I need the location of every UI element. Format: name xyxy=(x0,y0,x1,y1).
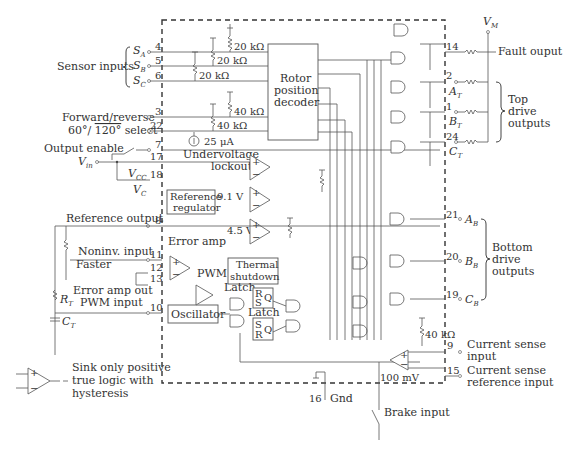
svg-text:PWM: PWM xyxy=(197,267,227,280)
svg-text:9: 9 xyxy=(447,340,453,351)
svg-text:SC: SC xyxy=(133,74,147,89)
svg-text:reference input: reference input xyxy=(467,376,554,389)
svg-text:+: + xyxy=(252,156,260,167)
svg-text:8: 8 xyxy=(155,215,161,226)
svg-text:25 μA: 25 μA xyxy=(204,136,234,147)
forward-reverse-group: Forward/reverse 60°/ 120° select 3 22 40… xyxy=(62,92,268,137)
svg-text:+: + xyxy=(172,256,180,267)
svg-text:Oscillator: Oscillator xyxy=(171,308,226,321)
top-output-transistors xyxy=(420,44,445,166)
svg-text:SB: SB xyxy=(133,59,146,74)
svg-text:CT: CT xyxy=(449,145,463,160)
svg-text:Reference: Reference xyxy=(170,191,222,202)
svg-text:Gnd: Gnd xyxy=(330,392,353,405)
current-source-25ua: 25 μA xyxy=(189,132,234,147)
svg-text:22: 22 xyxy=(150,120,163,131)
svg-text:4: 4 xyxy=(155,41,161,52)
svg-text:VM: VM xyxy=(483,15,499,30)
svg-text:+: + xyxy=(30,367,38,378)
svg-text:Brake input: Brake input xyxy=(384,406,450,419)
svg-text:hysteresis: hysteresis xyxy=(72,387,129,400)
svg-text:6: 6 xyxy=(155,70,161,81)
svg-text:PWM input: PWM input xyxy=(80,296,143,309)
svg-text:RT: RT xyxy=(59,293,74,308)
svg-text:20 kΩ: 20 kΩ xyxy=(199,70,229,81)
svg-text:Sink only positive: Sink only positive xyxy=(72,361,171,374)
svg-text:+: + xyxy=(252,187,260,198)
svg-text:−: − xyxy=(252,232,260,243)
svg-text:Output enable: Output enable xyxy=(44,142,124,155)
svg-text:−: − xyxy=(400,359,408,370)
bottom-drive-outputs: 21 20 19 AB BB CB Bottom drive outputs xyxy=(446,209,535,308)
svg-text:outputs: outputs xyxy=(492,265,535,278)
svg-text:3: 3 xyxy=(155,106,161,117)
svg-text:11: 11 xyxy=(150,249,163,260)
svg-text:Noninv. input: Noninv. input xyxy=(78,245,154,258)
svg-text:20 kΩ: 20 kΩ xyxy=(234,41,264,52)
svg-text:−: − xyxy=(172,269,180,280)
svg-text:regulator: regulator xyxy=(173,202,221,213)
svg-text:Error amp: Error amp xyxy=(168,235,226,248)
logic-gates-middle xyxy=(273,257,367,337)
sensor-inputs-label: Sensor inputs xyxy=(57,60,134,73)
undervoltage-lockout: Undervoltage lockout + − xyxy=(183,148,270,180)
svg-text:Latch: Latch xyxy=(224,281,256,294)
circuit-diagram: Sensor inputs SA SB SC 4 5 6 20 kΩ 20 kΩ… xyxy=(0,0,564,460)
svg-text:VCC: VCC xyxy=(128,167,147,182)
svg-text:Vin: Vin xyxy=(78,155,93,170)
svg-text:outputs: outputs xyxy=(508,117,551,130)
svg-text:−: − xyxy=(252,169,260,180)
svg-text:40 kΩ: 40 kΩ xyxy=(217,120,247,131)
svg-text:+: + xyxy=(252,219,260,230)
svg-text:Reference output: Reference output xyxy=(66,212,164,225)
svg-text:10: 10 xyxy=(150,302,163,313)
svg-text:lockout: lockout xyxy=(211,160,253,173)
rotor-position-decoder: Rotor position decoder xyxy=(268,44,320,140)
svg-text:7: 7 xyxy=(155,139,161,150)
svg-text:input: input xyxy=(467,350,497,363)
top-drive-outputs: 2 1 24 AT BT CT Top drive outputs xyxy=(446,70,551,160)
svg-text:R: R xyxy=(255,329,263,340)
svg-text:14: 14 xyxy=(446,41,459,52)
svg-text:16: 16 xyxy=(309,393,322,404)
svg-text:20: 20 xyxy=(446,251,459,262)
fault-output-group: 14 Fault ouput xyxy=(445,41,563,58)
svg-text:decoder: decoder xyxy=(274,96,320,109)
svg-text:21: 21 xyxy=(446,209,459,220)
svg-text:Q: Q xyxy=(264,292,272,303)
svg-text:Thermal: Thermal xyxy=(236,259,278,270)
svg-text:true logic with: true logic with xyxy=(72,374,154,387)
svg-text:BB: BB xyxy=(464,255,478,270)
svg-text:VC: VC xyxy=(133,183,147,198)
current-sense-comparator: + − 100 mV xyxy=(380,349,445,383)
svg-text:Forward/reverse: Forward/reverse xyxy=(62,111,155,124)
svg-text:AB: AB xyxy=(464,213,478,228)
svg-text:CT: CT xyxy=(62,315,76,330)
vm-supply: VM xyxy=(483,15,499,142)
svg-text:100 mV: 100 mV xyxy=(380,372,420,383)
svg-text:15: 15 xyxy=(447,365,460,376)
svg-text:18: 18 xyxy=(150,169,163,180)
top-logic-gates xyxy=(391,24,408,153)
legend-comparator-hysteresis: + − Sink only positive true logic with h… xyxy=(16,361,171,400)
svg-text:−: − xyxy=(252,200,260,211)
svg-text:Latch: Latch xyxy=(248,306,280,319)
pullup-resistors-20k: 20 kΩ 20 kΩ 20 kΩ xyxy=(192,24,264,81)
current-sense-group: 9 Current sense input 15 Current sense r… xyxy=(445,338,554,389)
svg-text:AT: AT xyxy=(448,85,463,100)
svg-text:1: 1 xyxy=(446,101,452,112)
svg-text:19: 19 xyxy=(446,289,459,300)
svg-text:12: 12 xyxy=(150,262,163,273)
svg-text:5: 5 xyxy=(155,55,161,66)
svg-text:40 kΩ: 40 kΩ xyxy=(425,329,455,340)
latch-2: Latch S R Q xyxy=(230,306,280,340)
svg-text:17: 17 xyxy=(150,151,163,162)
svg-text:BT: BT xyxy=(448,115,463,130)
svg-text:60°/ 120° select: 60°/ 120° select xyxy=(68,124,158,137)
oscillator-rc-group: Error amp out PWM input RT 10 CT xyxy=(50,284,163,330)
oscillator-block: Oscillator xyxy=(168,305,226,323)
svg-text:−: − xyxy=(30,383,38,394)
svg-text:40 kΩ: 40 kΩ xyxy=(234,106,264,117)
svg-text:2: 2 xyxy=(446,70,452,81)
svg-text:Faster: Faster xyxy=(76,258,112,271)
